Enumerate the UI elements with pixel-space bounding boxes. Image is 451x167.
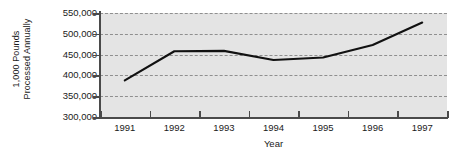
x-axis-tickmark — [199, 111, 201, 118]
y-axis-tick-label: 350,000 — [40, 91, 97, 101]
y-axis-tickmark — [93, 96, 100, 98]
y-axis-tickmark — [93, 55, 100, 57]
y-axis-tickmark — [93, 75, 100, 77]
x-axis-tick-label: 1993 — [200, 122, 248, 134]
x-axis-tickmark — [397, 111, 399, 118]
x-axis-tickmark — [150, 111, 152, 118]
y-axis-tick-label: 550,000 — [40, 8, 97, 18]
x-axis-line — [99, 117, 448, 119]
x-axis-tickmark — [100, 111, 102, 118]
x-axis-tickmark — [348, 111, 350, 118]
x-axis-tick-label: 1994 — [250, 122, 298, 134]
x-axis-tick-label: 1991 — [101, 122, 149, 134]
y-axis-tickmark — [93, 117, 100, 119]
y-axis-tick-label: 450,000 — [40, 50, 97, 60]
x-axis-title: Year — [100, 138, 447, 150]
x-axis-tick-label: 1996 — [349, 122, 397, 134]
y-axis-title-line-1: 1,000 Pounds — [11, 0, 22, 119]
y-axis-tick-label: 400,000 — [40, 70, 97, 80]
line-chart-figure: 1,000 Pounds Processed Annually 300,0003… — [0, 0, 451, 167]
y-axis-tick-labels: 300,000350,000400,000450,000500,000550,0… — [40, 8, 97, 120]
x-axis-tick-label: 1995 — [299, 122, 347, 134]
y-axis-tick-label: 500,000 — [40, 29, 97, 39]
x-axis-tickmark — [298, 111, 300, 118]
x-axis-tickmark — [249, 111, 251, 118]
y-axis-tickmark — [93, 34, 100, 36]
y-axis-tickmark — [93, 13, 100, 15]
x-axis-tickmark — [447, 111, 449, 118]
data-series-line — [100, 13, 447, 117]
y-axis-tick-label: 300,000 — [40, 112, 97, 122]
x-axis-tick-label: 1992 — [150, 122, 198, 134]
x-axis-tick-labels: 1991199219931994199519961997 — [100, 122, 447, 136]
y-axis-title: 1,000 Pounds Processed Annually — [11, 0, 33, 119]
x-axis-tick-label: 1997 — [398, 122, 446, 134]
y-axis-title-line-2: Processed Annually — [22, 0, 33, 119]
